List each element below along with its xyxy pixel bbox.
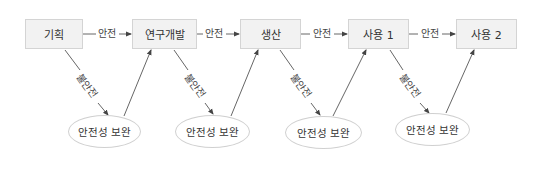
- remedy-label: 안전성 보완: [78, 124, 131, 139]
- stage-research-development: 연구개발: [132, 19, 197, 49]
- stage-use-1: 사용 1: [348, 19, 409, 49]
- stage-label: 사용 2: [471, 26, 502, 42]
- stage-use-2: 사용 2: [456, 19, 517, 49]
- stage-production: 생산: [240, 19, 301, 49]
- remedy-label: 안전성 보완: [297, 125, 350, 140]
- safe-edge-label: 안전: [96, 28, 118, 40]
- remedy-node: 안전성 보완: [68, 115, 141, 148]
- remedy-label: 안전성 보완: [406, 122, 459, 137]
- stage-label: 기획: [44, 26, 64, 42]
- safe-edge-label: 안전: [419, 28, 441, 40]
- remedy-node: 안전성 보완: [285, 116, 362, 149]
- stage-label: 연구개발: [145, 26, 185, 42]
- safe-edge-label: 안전: [203, 28, 225, 40]
- remedy-node: 안전성 보완: [175, 115, 250, 148]
- stage-label: 사용 1: [363, 26, 394, 42]
- remedy-node: 안전성 보완: [395, 113, 470, 146]
- stage-label: 생산: [261, 26, 281, 42]
- flow-diagram: 기획 연구개발 생산 사용 1 사용 2 안전 안전 안전 안전 불안전 불안전…: [0, 0, 533, 170]
- safe-edge-label: 안전: [311, 28, 333, 40]
- remedy-label: 안전성 보완: [186, 124, 239, 139]
- stage-planning: 기획: [25, 19, 83, 49]
